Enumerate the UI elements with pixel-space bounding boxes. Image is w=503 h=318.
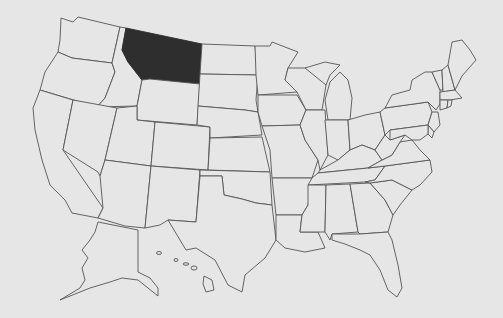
state-massachusetts[interactable] [440, 90, 462, 100]
state-hawaii[interactable] [157, 252, 215, 293]
state-arizona[interactable] [98, 160, 151, 228]
state-new-mexico[interactable] [145, 166, 200, 228]
state-florida[interactable] [332, 232, 402, 297]
state-connecticut[interactable] [440, 100, 448, 110]
state-wyoming[interactable] [137, 79, 200, 125]
state-kansas[interactable] [208, 137, 270, 172]
state-new-york[interactable] [385, 72, 440, 110]
state-colorado[interactable] [151, 122, 210, 170]
us-map-svg [0, 0, 503, 318]
state-south-dakota[interactable] [198, 74, 258, 112]
state-rhode-island[interactable] [447, 100, 452, 108]
us-map: Montana [0, 0, 503, 318]
state-alaska[interactable] [60, 222, 158, 300]
state-north-dakota[interactable] [200, 44, 258, 75]
state-iowa[interactable] [258, 95, 306, 126]
